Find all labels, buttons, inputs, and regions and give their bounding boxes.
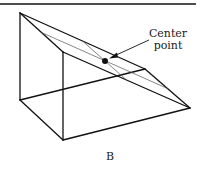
annotation-arrow xyxy=(109,40,149,59)
base-left-edge xyxy=(20,100,63,140)
base-back-edge xyxy=(20,69,145,100)
center-point-dot xyxy=(102,58,108,64)
prism-diagram: Center point B xyxy=(0,0,203,174)
panel-label: B xyxy=(106,150,114,163)
base-front-edge xyxy=(63,108,190,140)
annotation-line2: point xyxy=(154,39,183,52)
